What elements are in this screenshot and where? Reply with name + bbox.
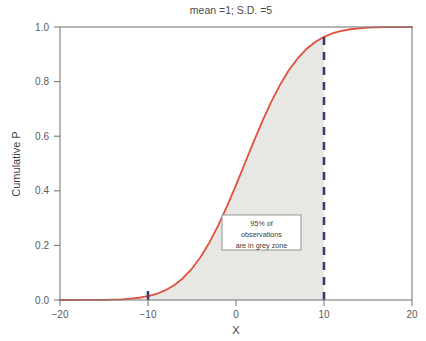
annotation-line-3: are in grey zone: [236, 241, 288, 250]
y-axis-tick-labels: 0.00.20.40.60.81.0: [35, 22, 49, 306]
y-tick-label: 0.2: [35, 240, 49, 251]
annotation-line-2: observations: [241, 230, 282, 239]
cumulative-probability-chart: −20−1001020 0.00.20.40.60.81.0 mean =1; …: [0, 0, 426, 341]
x-axis-tick-labels: −20−1001020: [52, 309, 418, 320]
y-tick-label: 0.6: [35, 131, 49, 142]
chart-container: −20−1001020 0.00.20.40.60.81.0 mean =1; …: [0, 0, 426, 341]
chart-title: mean =1; S.D. =5: [190, 4, 272, 16]
x-axis-title: X: [232, 324, 240, 336]
y-axis-tick-marks: [54, 27, 60, 300]
x-tick-label: 0: [233, 309, 239, 320]
x-tick-label: −10: [140, 309, 157, 320]
y-tick-label: 0.4: [35, 185, 49, 196]
x-tick-label: 20: [406, 309, 418, 320]
y-tick-label: 0.8: [35, 76, 49, 87]
y-axis-title: Cumulative P: [10, 131, 22, 196]
annotation-line-1: 95% of: [250, 219, 272, 228]
x-tick-label: −20: [52, 309, 69, 320]
x-tick-label: 10: [318, 309, 330, 320]
y-tick-label: 0.0: [35, 295, 49, 306]
x-axis-tick-marks: [60, 300, 412, 306]
y-tick-label: 1.0: [35, 22, 49, 33]
